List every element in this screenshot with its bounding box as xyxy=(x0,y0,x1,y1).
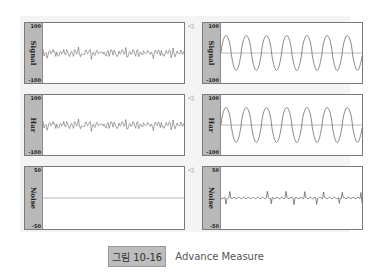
axis-strip: 50 Noise -50 xyxy=(25,167,43,229)
figure-number-badge: 그림 10-16 xyxy=(108,246,166,267)
y-max-label: 100 xyxy=(31,23,41,29)
axis-strip: 100 Har -100 xyxy=(25,95,43,155)
plot-area xyxy=(43,95,184,155)
panel-right-har: 100 Har -100 xyxy=(202,94,363,156)
speaker-icon[interactable]: ◁ xyxy=(188,94,193,102)
channel-label: Signal xyxy=(25,41,42,66)
axis-strip: 100 Signal -100 xyxy=(203,23,221,83)
plot-area xyxy=(221,167,362,229)
y-max-label: 100 xyxy=(209,95,219,101)
y-min-label: -100 xyxy=(206,77,219,83)
y-min-label: -100 xyxy=(206,149,219,155)
axis-strip: 50 Noise -50 xyxy=(203,167,221,229)
channel-label: Signal xyxy=(203,41,220,66)
y-min-label: -100 xyxy=(28,149,41,155)
speaker-icon[interactable]: ◁ xyxy=(188,166,193,174)
plot-area xyxy=(43,23,184,83)
plot-area xyxy=(221,23,362,83)
panel-left-har: 100 Har -100 xyxy=(24,94,185,156)
figure-caption: 그림 10-16 Advance Measure xyxy=(108,246,264,267)
y-max-label: 50 xyxy=(34,167,41,173)
channel-label: Noise xyxy=(25,187,42,209)
panel-right-noise: 50 Noise -50 xyxy=(202,166,363,230)
axis-strip: 100 Signal -100 xyxy=(25,23,43,83)
channel-label: Har xyxy=(25,118,42,133)
speaker-icon[interactable]: ◁ xyxy=(188,22,193,30)
channel-label: Noise xyxy=(203,187,220,209)
plot-area xyxy=(221,95,362,155)
panel-left-noise: 50 Noise -50 xyxy=(24,166,185,230)
axis-strip: 100 Har -100 xyxy=(203,95,221,155)
panel-left-signal: 100 Signal -100 xyxy=(24,22,185,84)
y-min-label: -100 xyxy=(28,77,41,83)
figure-title: Advance Measure xyxy=(175,251,264,262)
panel-right-signal: 100 Signal -100 xyxy=(202,22,363,84)
plot-area xyxy=(43,167,184,229)
y-max-label: 100 xyxy=(209,23,219,29)
y-min-label: -50 xyxy=(32,223,41,229)
y-max-label: 100 xyxy=(31,95,41,101)
channel-label: Har xyxy=(203,118,220,133)
y-max-label: 50 xyxy=(212,167,219,173)
y-min-label: -50 xyxy=(210,223,219,229)
